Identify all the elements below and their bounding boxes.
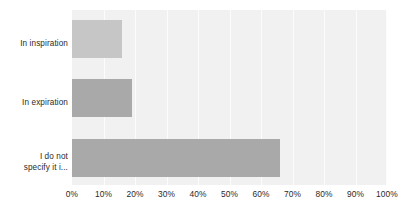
tick-label-10: 10% — [95, 188, 112, 200]
tick-label-80: 80% — [315, 188, 332, 200]
category-axis: In inspiration In expiration I do not sp… — [0, 10, 68, 185]
tick-label-100: 100% — [376, 188, 398, 200]
bar-in-expiration — [72, 79, 132, 117]
category-label-i-do-not-specify: I do not specify it i... — [0, 152, 68, 173]
tick-label-30: 30% — [158, 188, 175, 200]
tick-label-0: 0% — [66, 188, 78, 200]
tick-label-40: 40% — [189, 188, 206, 200]
bar-i-do-not-specify — [72, 139, 280, 177]
tick-label-20: 20% — [126, 188, 143, 200]
tick-label-90: 90% — [347, 188, 364, 200]
gridline-90 — [356, 10, 357, 185]
bar-in-inspiration — [72, 20, 122, 58]
category-label-in-inspiration: In inspiration — [0, 39, 68, 50]
value-axis: 0%10%20%30%40%50%60%70%80%90%100% — [0, 188, 403, 210]
tick-label-50: 50% — [221, 188, 238, 200]
tick-label-60: 60% — [252, 188, 269, 200]
tick-label-70: 70% — [284, 188, 301, 200]
gridline-80 — [324, 10, 325, 185]
category-label-in-expiration: In expiration — [0, 98, 68, 109]
gridline-100 — [386, 10, 387, 185]
gridline-70 — [293, 10, 294, 185]
plot-area — [72, 10, 387, 185]
horizontal-bar-chart: In inspiration In expiration I do not sp… — [0, 0, 403, 210]
